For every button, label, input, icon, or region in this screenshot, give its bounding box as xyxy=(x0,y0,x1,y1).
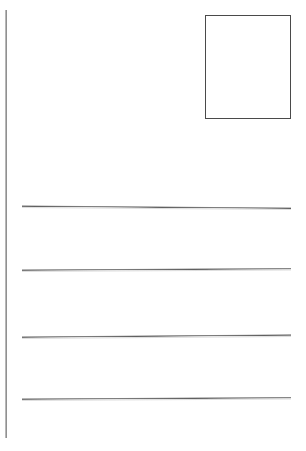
stamp-box[interactable] xyxy=(205,15,291,119)
vertical-divider-label: Vertical divider rule xyxy=(0,0,1,1)
stamp-box-label: Stamp box xyxy=(0,0,1,1)
address-line[interactable] xyxy=(22,397,291,400)
address-line[interactable] xyxy=(22,205,291,209)
postcard-page: Vertical divider rule Stamp box Address … xyxy=(0,0,306,451)
address-lines-label: Address writing lines xyxy=(0,0,1,1)
address-line[interactable] xyxy=(22,268,291,271)
address-line[interactable] xyxy=(22,334,291,338)
vertical-divider-line xyxy=(5,10,7,438)
stamp-box-inner-area xyxy=(206,16,290,118)
